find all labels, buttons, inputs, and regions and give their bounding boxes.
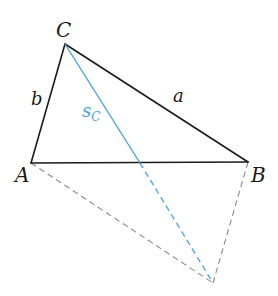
vertex-label-c: C bbox=[56, 20, 71, 40]
triangle-diagram: C A B b a sC bbox=[0, 0, 278, 296]
median-extension bbox=[140, 163, 213, 283]
dashed-line-b-d bbox=[213, 162, 248, 283]
median-label-main: s bbox=[82, 100, 91, 121]
median-label-sc: sC bbox=[82, 102, 100, 120]
vertex-label-b: B bbox=[251, 165, 266, 185]
side-label-a: a bbox=[173, 87, 184, 105]
median-label-subscript: C bbox=[91, 110, 100, 124]
vertex-label-a: A bbox=[15, 165, 29, 185]
side-label-b: b bbox=[31, 90, 43, 108]
dashed-line-a-d bbox=[31, 163, 213, 283]
median-sc bbox=[65, 44, 140, 163]
diagram-canvas bbox=[0, 0, 278, 296]
